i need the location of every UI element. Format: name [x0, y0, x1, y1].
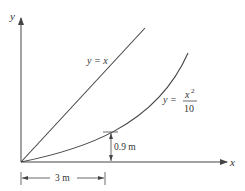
parabola-curve [21, 53, 188, 162]
parabola-denominator: 10 [184, 103, 194, 114]
parabola-numerator-exponent: 2 [191, 87, 195, 95]
x-axis-label: x [229, 156, 235, 168]
line-equation-label: y = x [86, 55, 108, 66]
parabola-numerator: x [184, 89, 190, 100]
vertical-dimension-label: 0.9 m [114, 142, 136, 152]
y-axis-label: y [9, 10, 15, 22]
parabola-diagram: y x y = x y = x 2 10 0.9 m 3 m [0, 0, 245, 191]
parabola-equation-lhs: y = [162, 94, 177, 105]
horizontal-dimension-label: 3 m [55, 173, 70, 183]
